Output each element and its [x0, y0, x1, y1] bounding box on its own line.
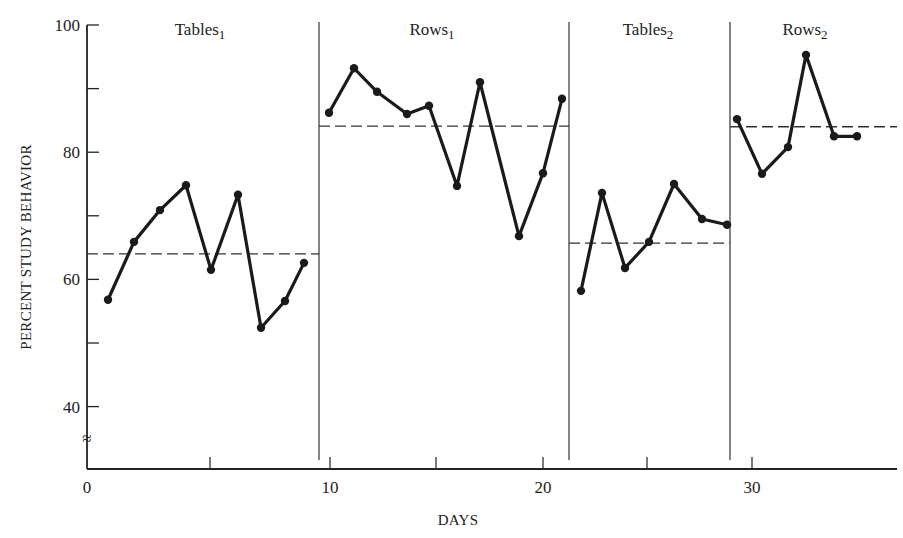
- phase-dividers: [319, 22, 730, 460]
- data-point-marker: [723, 221, 731, 229]
- phase-label-tables2: Tables2: [623, 20, 674, 42]
- data-point-marker: [104, 296, 112, 304]
- phase-mean-lines: [87, 126, 897, 254]
- series-line-rows1: [329, 68, 562, 236]
- y-tick-label: 80: [63, 143, 80, 162]
- data-series: [104, 51, 861, 332]
- x-tick-label: 20: [535, 478, 552, 497]
- x-tick-label: 0: [83, 478, 92, 497]
- data-point-marker: [539, 169, 547, 177]
- data-point-marker: [476, 78, 484, 86]
- phase-label-tables1: Tables1: [175, 20, 226, 42]
- series-line-tables1: [108, 185, 304, 327]
- data-point-marker: [130, 238, 138, 246]
- y-tick-label: 40: [63, 398, 80, 417]
- series-line-rows2: [737, 55, 857, 174]
- x-axis-title: DAYS: [438, 512, 479, 528]
- data-point-marker: [453, 182, 461, 190]
- axes: 406080100≈0102030: [55, 16, 898, 497]
- data-point-marker: [784, 143, 792, 151]
- data-point-marker: [558, 95, 566, 103]
- data-point-marker: [373, 88, 381, 96]
- phase-label-rows2: Rows2: [782, 20, 827, 42]
- y-axis-title: PERCENT STUDY BEHAVIOR: [18, 144, 34, 350]
- data-point-marker: [698, 215, 706, 223]
- data-point-marker: [300, 259, 308, 267]
- single-case-line-chart: 406080100≈0102030 Tables1Rows1Tables2Row…: [0, 0, 903, 538]
- data-point-marker: [645, 238, 653, 246]
- data-point-marker: [853, 132, 861, 140]
- phase-label-rows1: Rows1: [409, 20, 454, 42]
- data-point-marker: [234, 191, 242, 199]
- data-point-marker: [758, 170, 766, 178]
- data-point-marker: [577, 287, 585, 295]
- data-point-marker: [670, 180, 678, 188]
- data-point-marker: [830, 132, 838, 140]
- data-point-marker: [257, 324, 265, 332]
- y-tick-label: 100: [55, 16, 81, 35]
- axis-break-icon: ≈: [82, 429, 91, 448]
- data-point-marker: [733, 115, 741, 123]
- data-point-marker: [156, 206, 164, 214]
- data-point-marker: [621, 264, 629, 272]
- data-point-marker: [350, 64, 358, 72]
- data-point-marker: [403, 110, 411, 118]
- data-point-marker: [325, 109, 333, 117]
- x-tick-label: 30: [744, 478, 761, 497]
- data-point-marker: [802, 51, 810, 59]
- data-point-marker: [425, 102, 433, 110]
- y-tick-label: 60: [63, 270, 80, 289]
- x-tick-label: 10: [322, 478, 339, 497]
- data-point-marker: [598, 189, 606, 197]
- data-point-marker: [207, 266, 215, 274]
- data-point-marker: [515, 232, 523, 240]
- series-line-tables2: [581, 184, 727, 291]
- data-point-marker: [281, 297, 289, 305]
- data-point-marker: [182, 181, 190, 189]
